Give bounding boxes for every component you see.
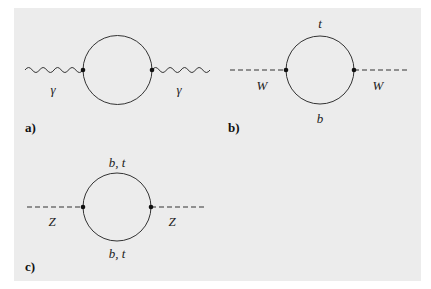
label-bottom: b, t	[109, 246, 126, 261]
label-right: Z	[168, 214, 176, 229]
vertex-right	[352, 68, 357, 73]
label-top: b, t	[109, 155, 126, 170]
photon-line-right	[152, 68, 210, 73]
vertex-left	[81, 205, 86, 210]
label-left: W	[257, 78, 269, 93]
diagram-tag: c)	[25, 259, 35, 274]
fermion-loop	[286, 36, 354, 104]
label-right: W	[373, 78, 385, 93]
label-right: γ	[176, 82, 182, 97]
vertex-right	[149, 205, 154, 210]
diagram-tag: a)	[25, 120, 36, 135]
fermion-loop	[83, 36, 152, 105]
diagram-tag: b)	[228, 120, 240, 135]
feynman-diagrams: γ γ a) t b W W b) b, t b, t Z Z c)	[0, 0, 431, 289]
diagram-c: b, t b, t Z Z c)	[25, 155, 207, 274]
label-top: t	[318, 16, 322, 31]
photon-line-left	[25, 68, 83, 73]
label-bottom: b	[317, 111, 324, 126]
diagram-b: t b W W b)	[228, 16, 410, 135]
diagram-a: γ γ a)	[25, 36, 210, 136]
vertex-right	[150, 68, 155, 73]
label-left: Z	[48, 214, 56, 229]
vertex-left	[81, 68, 86, 73]
label-left: γ	[50, 82, 56, 97]
vertex-left	[284, 68, 289, 73]
fermion-loop	[83, 173, 151, 241]
